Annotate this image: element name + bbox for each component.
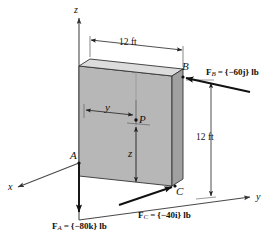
point-P-marker xyxy=(134,118,137,121)
force-FA-value: {−80k} lb xyxy=(71,221,107,231)
point-label-B: B xyxy=(182,61,189,72)
force-FA-equals: = xyxy=(64,221,69,231)
axis-x xyxy=(18,163,79,187)
force-FC-equals: = xyxy=(150,210,155,220)
force-FB-equals: = xyxy=(218,67,223,77)
force-FA-subscript: A xyxy=(58,224,62,232)
axis-label-y: y xyxy=(256,192,260,202)
force-FC-arrow xyxy=(119,184,177,205)
dimension-label-y: y xyxy=(105,102,110,113)
axis-label-x: x xyxy=(8,182,12,192)
point-label-C: C xyxy=(176,186,183,197)
plate-right-face xyxy=(172,69,183,186)
force-label-FC: FC={−40i} lb xyxy=(138,211,191,221)
force-FC-value: {−40i} lb xyxy=(157,210,190,220)
force-FB-subscript: B xyxy=(212,70,216,78)
dimension-label-top-width: 12 ft xyxy=(119,38,137,48)
dim-right-ext-bottom xyxy=(196,197,216,199)
figure-canvas: z y x A B C P 12 ft 12 ft y z FA={−80k} … xyxy=(0,0,274,244)
plate-front-face xyxy=(79,66,172,186)
dimension-label-right-height: 12 ft xyxy=(196,133,214,143)
point-label-A: A xyxy=(70,150,77,161)
force-FC-subscript: C xyxy=(144,213,149,221)
point-label-P: P xyxy=(139,114,146,125)
axis-label-z: z xyxy=(74,5,78,15)
force-FB-value: {−60j} lb xyxy=(225,67,259,77)
engineering-diagram-svg xyxy=(0,0,274,244)
dimension-label-z: z xyxy=(128,148,132,159)
force-label-FA: FA={−80k} lb xyxy=(52,222,107,232)
force-label-FB: FB={−60j} lb xyxy=(206,68,259,78)
plate-body xyxy=(79,59,183,186)
